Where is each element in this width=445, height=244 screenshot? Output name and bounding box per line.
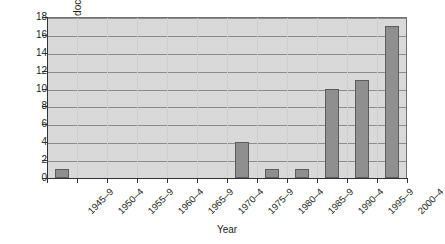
category-separator — [107, 18, 108, 178]
x-tick-mark — [47, 178, 48, 183]
category-separator — [197, 18, 198, 178]
y-tick-mark — [42, 89, 47, 90]
x-tick-mark — [137, 178, 138, 183]
y-tick-mark — [42, 71, 47, 72]
x-tick-label: 1955–9 — [145, 186, 175, 216]
category-separator — [137, 18, 138, 178]
x-tick-mark — [407, 178, 408, 183]
x-tick-mark — [197, 178, 198, 183]
bar — [325, 89, 339, 178]
x-tick-label: 1990–4 — [355, 186, 385, 216]
x-tick-label: 1980–4 — [295, 186, 325, 216]
bar — [265, 169, 279, 178]
x-tick-mark — [287, 178, 288, 183]
x-axis-title: Year — [47, 224, 407, 235]
bar — [235, 142, 249, 178]
x-tick-mark — [257, 178, 258, 183]
x-tick-mark — [107, 178, 108, 183]
x-tick-mark — [317, 178, 318, 183]
category-separator — [257, 18, 258, 178]
plot-area — [47, 17, 407, 178]
y-tick-mark — [42, 160, 47, 161]
y-axis-line — [47, 17, 48, 179]
category-separator — [377, 18, 378, 178]
y-tick-mark — [42, 106, 47, 107]
category-separator — [77, 18, 78, 178]
x-tick-label: 1995–9 — [385, 186, 415, 216]
x-tick-mark — [227, 178, 228, 183]
x-tick-label: 1985–9 — [325, 186, 355, 216]
bar — [295, 169, 309, 178]
y-tick-mark — [42, 142, 47, 143]
x-tick-mark — [77, 178, 78, 183]
y-tick-mark — [42, 53, 47, 54]
x-tick-label: 1965–9 — [205, 186, 235, 216]
category-separator — [317, 18, 318, 178]
x-tick-label: 1960–4 — [175, 186, 205, 216]
bar — [55, 169, 69, 178]
x-tick-mark — [377, 178, 378, 183]
y-tick-mark — [42, 35, 47, 36]
x-tick-label: 1975–9 — [265, 186, 295, 216]
x-tick-mark — [167, 178, 168, 183]
x-tick-mark — [347, 178, 348, 183]
y-tick-mark — [42, 17, 47, 18]
plot-inner — [47, 18, 406, 178]
x-tick-label: 1945–9 — [85, 186, 115, 216]
category-separator — [227, 18, 228, 178]
category-separator — [167, 18, 168, 178]
x-tick-label: 1950–4 — [115, 186, 145, 216]
category-separator — [347, 18, 348, 178]
category-separator — [287, 18, 288, 178]
bar — [355, 80, 369, 178]
y-tick-mark — [42, 124, 47, 125]
bar — [385, 26, 399, 178]
x-tick-label: 2000–4 — [415, 186, 445, 216]
x-tick-label: 1970–4 — [235, 186, 265, 216]
